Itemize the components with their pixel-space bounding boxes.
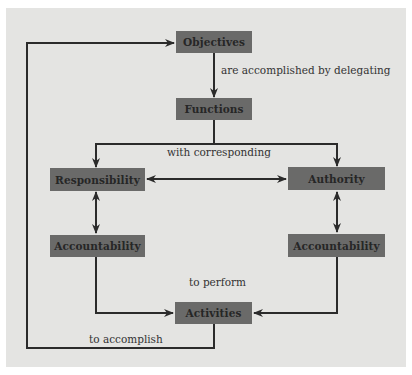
node-functions: Functions (176, 98, 252, 120)
edge-accountability-left-activities (96, 257, 173, 313)
edge-accountability-right-activities (254, 257, 337, 313)
node-activities: Activities (175, 302, 252, 324)
edge-label-delegating: are accomplished by delegating (221, 64, 391, 76)
node-accountability-left-label: Accountability (54, 240, 141, 252)
node-responsibility-label: Responsibility (55, 174, 140, 186)
node-authority-label: Authority (308, 173, 365, 185)
node-responsibility: Responsibility (50, 168, 145, 191)
node-activities-label: Activities (186, 307, 242, 319)
node-objectives: Objectives (176, 31, 252, 53)
edge-label-to-accomplish: to accomplish (89, 333, 163, 345)
node-accountability-right: Accountability (288, 234, 385, 257)
node-objectives-label: Objectives (183, 36, 245, 48)
node-accountability-left: Accountability (50, 235, 145, 257)
edge-label-with-corresponding: with corresponding (167, 146, 271, 158)
node-authority: Authority (288, 167, 385, 190)
node-functions-label: Functions (184, 103, 243, 115)
node-accountability-right-label: Accountability (293, 240, 380, 252)
edge-label-to-perform: to perform (189, 276, 246, 288)
